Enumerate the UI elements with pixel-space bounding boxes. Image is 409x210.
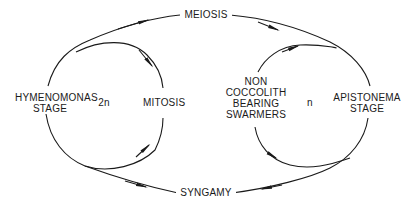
hymenomonas-stage-label: HYMENOMONAS STAGE (15, 92, 85, 114)
mitosis-arc-top (76, 43, 163, 88)
swarmers-line3: BEARING (225, 98, 287, 109)
swarmer-arc-bottom (255, 127, 350, 167)
haploid-ploidy-label: n (305, 97, 315, 108)
swarmers-line2: COCCOLITH (225, 87, 287, 98)
mitosis-arc-bottom (46, 114, 163, 169)
meiosis-label: MEIOSIS (180, 9, 232, 20)
syngamy-label: SYNGAMY (176, 187, 236, 198)
apistonema-stage-label: APISTONEMA STAGE (332, 92, 402, 114)
syngamy-arc-left (85, 166, 178, 193)
mitosis-label: MITOSIS (143, 97, 185, 108)
syngamy-arc-right (232, 118, 368, 193)
apistonema-stage-line1: APISTONEMA (332, 92, 402, 103)
swarmers-line1: NON (225, 76, 287, 87)
mitosis-arrow-bottom (136, 145, 149, 157)
hymenomonas-stage-line2: STAGE (15, 103, 85, 114)
diploid-ploidy-label: 2n (96, 97, 112, 108)
meiosis-arrow-right (258, 22, 278, 30)
swarmers-line4: SWARMERS (225, 109, 287, 120)
swarmer-arc-top (258, 45, 336, 72)
swarmers-label: NON COCCOLITH BEARING SWARMERS (225, 76, 287, 120)
hymenomonas-stage-line1: HYMENOMONAS (15, 92, 85, 103)
swarmer-arrow-bottom (268, 153, 276, 158)
apistonema-stage-line2: STAGE (332, 103, 402, 114)
meiosis-arrow-left (118, 20, 148, 29)
